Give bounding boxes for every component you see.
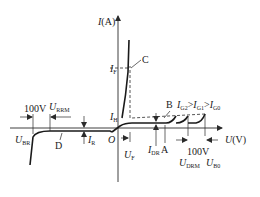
label-udrm: UDRM	[179, 157, 201, 169]
gate-current-relation: IG2>IG1>IG0	[176, 99, 220, 111]
y-axis-label: I(A)	[97, 16, 115, 28]
label-ir: IR	[87, 134, 95, 146]
leader-b	[164, 111, 170, 118]
conduction-curve	[122, 40, 129, 118]
label-uf: UF	[124, 149, 135, 161]
label-ub0: UB0	[206, 157, 220, 169]
switching-dashed-line	[132, 114, 205, 118]
leader-d	[60, 133, 62, 140]
thyristor-characteristic-diagram: I(A) U(V) O C B A D IF IH IR UF IDR IG2>…	[0, 0, 260, 197]
label-if: IF	[109, 63, 117, 75]
gate-curve-ig2	[166, 116, 176, 123]
label-urrm: URRM	[49, 101, 70, 113]
label-a: A	[161, 144, 169, 155]
label-d: D	[55, 140, 62, 151]
gate-curve-ig1	[176, 116, 188, 123]
label-right-100v: 100V	[187, 146, 210, 157]
label-left-100v: 100V	[24, 103, 47, 114]
label-b: B	[166, 99, 173, 110]
label-c: C	[142, 54, 149, 65]
label-ih: IH	[109, 111, 118, 123]
leader-c	[131, 60, 141, 68]
forward-blocking-curve	[112, 123, 166, 132]
label-ubr: UBR	[15, 134, 30, 146]
x-axis-label: U(V)	[225, 134, 246, 146]
label-idr: IDR	[147, 144, 160, 156]
gate-curve-ig0	[188, 114, 205, 123]
origin-label: O	[108, 134, 115, 145]
reverse-blocking-curve	[30, 131, 112, 165]
